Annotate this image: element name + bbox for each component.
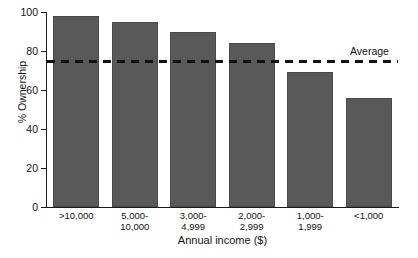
category-label: 3,000- 4,999 [164, 211, 223, 232]
bar [53, 16, 99, 207]
bar-chart: % Ownership 020406080100 Annual income (… [0, 0, 418, 258]
y-axis-tick-label: 40 [0, 124, 38, 135]
y-axis-tick [41, 168, 46, 169]
category-label: <1,000 [340, 211, 399, 222]
y-axis-tick [41, 90, 46, 91]
y-axis-tick-label: 80 [0, 46, 38, 57]
bar [229, 43, 275, 207]
category-label: 1,000- 1,999 [281, 211, 340, 232]
y-axis-tick [41, 12, 46, 13]
bar [287, 72, 333, 207]
bar [112, 22, 158, 207]
category-label: 2,000- 2,999 [223, 211, 282, 232]
average-label: Average [350, 45, 389, 57]
plot-area [47, 12, 398, 207]
y-axis-tick [41, 51, 46, 52]
y-axis-tick-label: 20 [0, 163, 38, 174]
x-axis-line [46, 207, 399, 208]
bar [346, 98, 392, 207]
bar [170, 32, 216, 208]
y-axis-tick-label: 100 [0, 7, 38, 18]
y-axis-tick-label: 60 [0, 85, 38, 96]
average-line [47, 60, 398, 63]
y-axis-tick [41, 129, 46, 130]
category-label: >10,000 [47, 211, 106, 222]
y-axis-tick-label: 0 [0, 202, 38, 213]
x-axis-title: Annual income ($) [47, 234, 398, 246]
category-label: 5,000- 10,000 [106, 211, 165, 232]
